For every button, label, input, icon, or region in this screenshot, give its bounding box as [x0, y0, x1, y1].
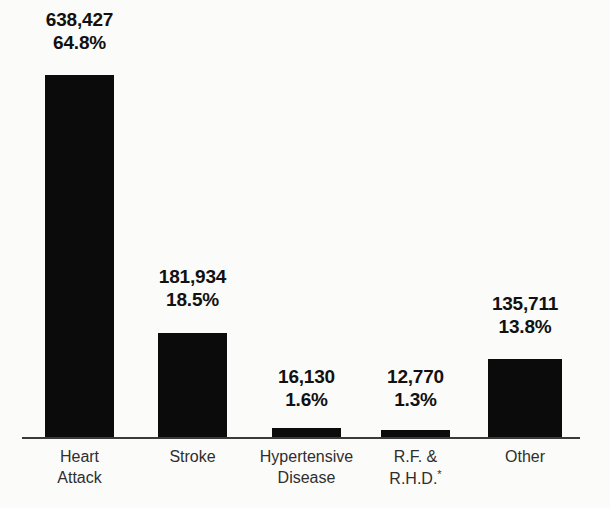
bar-stroke [158, 333, 227, 437]
value-count-other: 135,711 [485, 292, 565, 315]
value-count-hypertensive-disease: 16,130 [262, 365, 351, 388]
footnote-asterisk: * [437, 468, 441, 480]
value-percent-other: 13.8% [485, 315, 565, 338]
value-label-hypertensive-disease: 16,130 1.6% [262, 365, 351, 411]
bar-other [488, 359, 562, 437]
value-percent-stroke: 18.5% [153, 288, 232, 311]
bar-heart-attack [45, 75, 114, 437]
bar-hypertensive-disease [272, 428, 341, 437]
x-axis-line [22, 437, 580, 439]
category-label-line2-text: R.H.D. [389, 470, 437, 487]
value-count-heart-attack: 638,427 [45, 8, 114, 31]
category-label-rf-rhd: R.F. & R.H.D.* [371, 446, 460, 490]
category-label-line1: Stroke [169, 448, 215, 465]
plot-area: 638,427 64.8% Heart Attack 181,934 18.5%… [0, 0, 610, 508]
value-label-other: 135,711 13.8% [485, 292, 565, 338]
value-count-rf-rhd: 12,770 [371, 365, 460, 388]
category-label-line1: R.F. & [394, 448, 438, 465]
bar-chart: 638,427 64.8% Heart Attack 181,934 18.5%… [0, 0, 610, 508]
category-label-other: Other [485, 446, 565, 467]
category-label-hypertensive-disease: Hypertensive Disease [252, 446, 361, 488]
value-count-stroke: 181,934 [153, 265, 232, 288]
category-label-line2: Disease [252, 467, 361, 488]
category-label-stroke: Stroke [153, 446, 232, 467]
category-label-line2: R.H.D.* [371, 467, 460, 489]
value-label-rf-rhd: 12,770 1.3% [371, 365, 460, 411]
category-label-heart-attack: Heart Attack [45, 446, 114, 488]
value-percent-hypertensive-disease: 1.6% [262, 388, 351, 411]
category-label-line1: Heart [60, 448, 99, 465]
category-label-line2: Attack [45, 467, 114, 488]
bar-rf-rhd [381, 430, 450, 437]
value-label-stroke: 181,934 18.5% [153, 265, 232, 311]
value-label-heart-attack: 638,427 64.8% [45, 8, 114, 54]
value-percent-rf-rhd: 1.3% [371, 388, 460, 411]
category-label-line1: Other [505, 448, 545, 465]
category-label-line1: Hypertensive [260, 448, 353, 465]
value-percent-heart-attack: 64.8% [45, 31, 114, 54]
